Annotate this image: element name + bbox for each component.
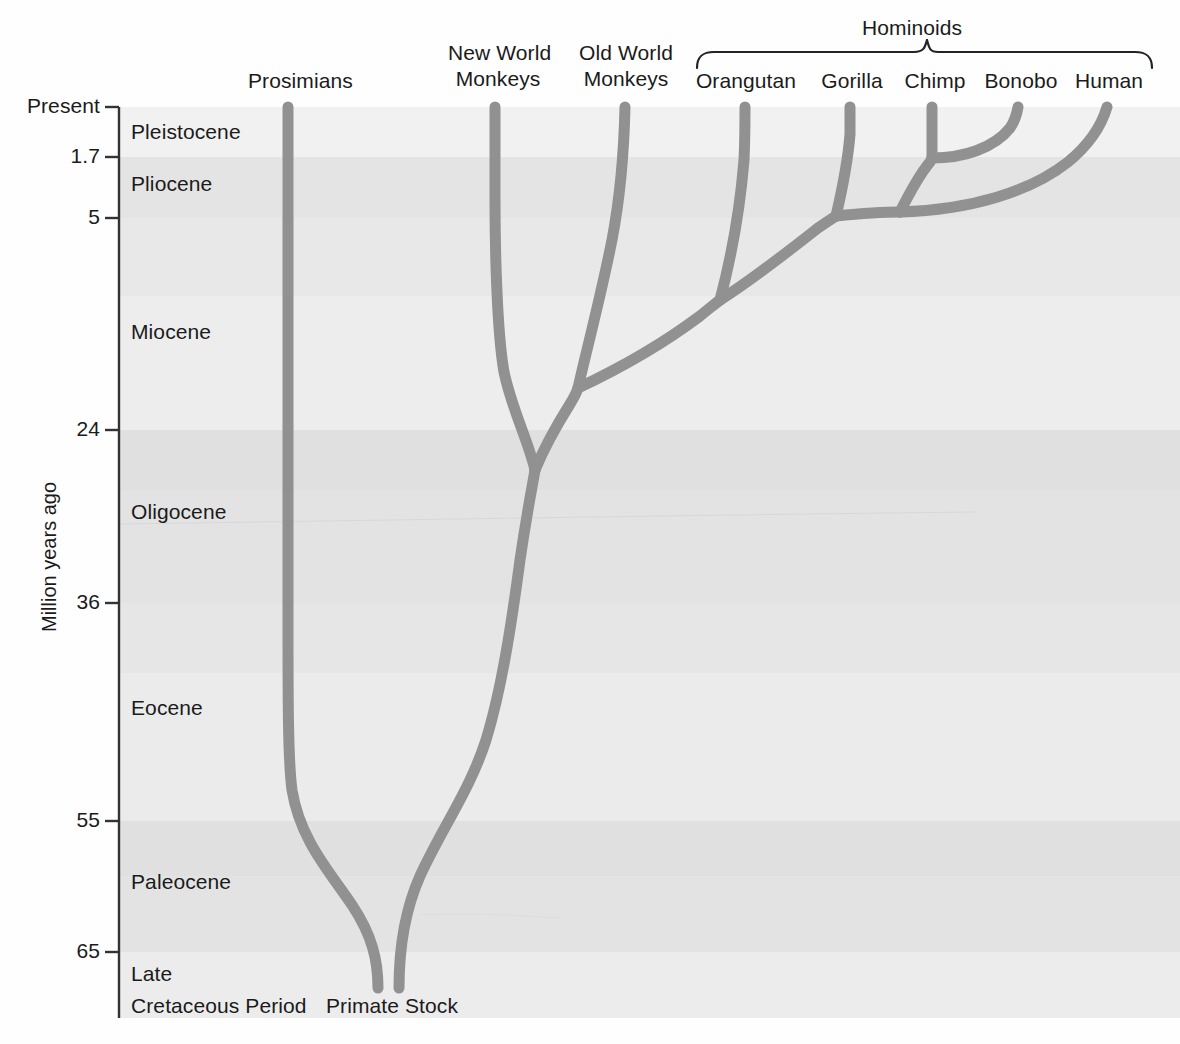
band-oligocene-soft bbox=[118, 430, 1180, 490]
epoch-label-eocene: Eocene bbox=[131, 696, 203, 720]
epoch-label-miocene: Miocene bbox=[131, 320, 211, 344]
epoch-label-pleistocene: Pleistocene bbox=[131, 120, 241, 144]
epoch-bands bbox=[118, 107, 1180, 1018]
epoch-label-late: Late bbox=[131, 962, 172, 986]
time-axis bbox=[105, 107, 119, 1018]
branch-panin-human-trunk[interactable] bbox=[836, 212, 900, 216]
epoch-label-pliocene: Pliocene bbox=[131, 172, 212, 196]
tip-label-prosimians: Prosimians bbox=[248, 68, 338, 93]
tip-label-gorilla: Gorilla bbox=[810, 68, 894, 93]
bracket-left-arm bbox=[697, 40, 927, 68]
epoch-label-cretaceous-period: Cretaceous Period bbox=[131, 994, 307, 1018]
y-axis-title: Million years ago bbox=[38, 482, 61, 632]
axis-tick-label-65: 65 bbox=[0, 939, 100, 963]
axis-tick-label-5: 5 bbox=[0, 205, 100, 229]
axis-tick-label-present: Present bbox=[0, 94, 100, 118]
root-label-primate-stock: Primate Stock bbox=[326, 994, 458, 1018]
tip-label-old-world-monkeys-line1: Old World bbox=[578, 40, 674, 65]
tip-label-orangutan: Orangutan bbox=[691, 68, 801, 93]
epoch-label-oligocene: Oligocene bbox=[131, 500, 226, 524]
tip-label-new-world-monkeys-line2: Monkeys bbox=[448, 66, 548, 91]
hominoids-group-label: Hominoids bbox=[862, 16, 962, 40]
tip-label-new-world-monkeys-line1: New World bbox=[448, 40, 548, 65]
tip-label-bonobo: Bonobo bbox=[978, 68, 1064, 93]
tip-label-chimp: Chimp bbox=[898, 68, 972, 93]
band-eocene-soft bbox=[118, 603, 1180, 673]
hominoids-bracket bbox=[697, 40, 1152, 68]
axis-tick-label-1-7: 1.7 bbox=[0, 144, 100, 168]
bracket-right-arm bbox=[927, 40, 1152, 68]
epoch-label-paleocene: Paleocene bbox=[131, 870, 231, 894]
tip-label-old-world-monkeys-line2: Monkeys bbox=[578, 66, 674, 91]
band-miocene-soft bbox=[118, 218, 1180, 296]
tip-label-human: Human bbox=[1068, 68, 1150, 93]
axis-tick-label-24: 24 bbox=[0, 417, 100, 441]
primate-phylogeny-figure: Hominoids Prosimians New World Monkeys O… bbox=[0, 0, 1180, 1044]
band-paleocene-soft bbox=[118, 821, 1180, 876]
axis-tick-label-55: 55 bbox=[0, 808, 100, 832]
